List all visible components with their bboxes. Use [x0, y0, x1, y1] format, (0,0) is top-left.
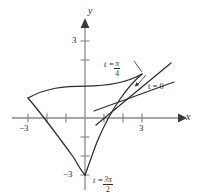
- parametric-curve-figure: x y −3 3 3 −3 t = π4 t = 0 t = 3π2: [0, 0, 197, 196]
- y-tick-label--3: −3: [63, 170, 73, 179]
- annotation-t-3pi-over-2-prefix: t =: [93, 175, 103, 185]
- axes-group: [12, 18, 187, 190]
- y-axis-arrowhead: [81, 18, 90, 28]
- annotation-t-pi-over-4: t = π4: [104, 52, 120, 78]
- curve-right-arc: [85, 74, 142, 175]
- x-tick-label-3: 3: [139, 124, 144, 133]
- fraction-numerator: 3π: [103, 176, 113, 185]
- annotation-t-pi-over-4-prefix: t =: [104, 59, 114, 69]
- fraction-numerator: π: [114, 60, 120, 69]
- fraction-denominator: 2: [103, 185, 113, 193]
- annotation-t-3pi-over-2-fraction: 3π2: [103, 168, 113, 194]
- fraction-denominator: 4: [114, 69, 120, 77]
- annotation-t-3pi-over-2: t = 3π2: [93, 168, 113, 194]
- x-tick-label--3: −3: [19, 124, 29, 133]
- annotation-t-zero: t = 0: [148, 82, 164, 91]
- y-axis-label: y: [88, 6, 92, 16]
- curve-left-arc: [28, 98, 85, 175]
- leader-arrowhead-t-0: [135, 82, 140, 86]
- leader-lines-group: [134, 61, 146, 86]
- y-tick-label-3: 3: [72, 36, 77, 45]
- leader-line-t-pi-over-4: [134, 61, 142, 72]
- x-axis-label: x: [186, 112, 190, 122]
- annotation-t-pi-over-4-fraction: π4: [114, 52, 120, 78]
- plot-canvas: [0, 0, 197, 196]
